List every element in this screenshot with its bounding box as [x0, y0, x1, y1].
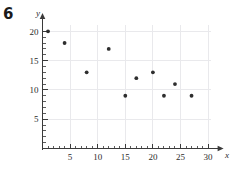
y-axis-arrow-icon [40, 13, 46, 19]
y-tick-label: 20 [30, 27, 40, 37]
axis-titles: yx [35, 8, 229, 160]
chart-canvas: 510152025305101520 yx [0, 0, 237, 171]
x-tick-label: 15 [121, 152, 131, 162]
x-axis-title: x [224, 150, 229, 160]
x-tick-label: 5 [68, 152, 73, 162]
gridlines [43, 25, 211, 148]
data-point [162, 94, 166, 98]
data-point [134, 76, 138, 80]
data-point [46, 29, 50, 33]
data-point [190, 94, 194, 98]
x-tick-label: 10 [93, 152, 103, 162]
y-tick-label: 5 [34, 114, 39, 124]
data-point [151, 70, 155, 74]
scatter-plot-figure: 6 510152025305101520 yx [0, 0, 237, 171]
y-axis-title: y [35, 8, 40, 18]
data-point [85, 70, 89, 74]
axis-lines [40, 13, 224, 151]
x-tick-label: 25 [176, 152, 186, 162]
x-tick-label: 30 [204, 152, 214, 162]
y-tick-label: 15 [30, 56, 40, 66]
chart-plot-area: 510152025305101520 yx [0, 0, 237, 171]
data-point [63, 41, 67, 45]
x-axis-arrow-icon [218, 146, 224, 152]
data-point [123, 94, 127, 98]
data-point [173, 82, 177, 86]
minor-tick-marks [43, 37, 203, 148]
data-point [107, 47, 111, 51]
x-tick-label: 20 [148, 152, 158, 162]
tick-labels: 510152025305101520 [30, 27, 214, 162]
y-tick-label: 10 [30, 85, 40, 95]
data-points [46, 29, 193, 97]
